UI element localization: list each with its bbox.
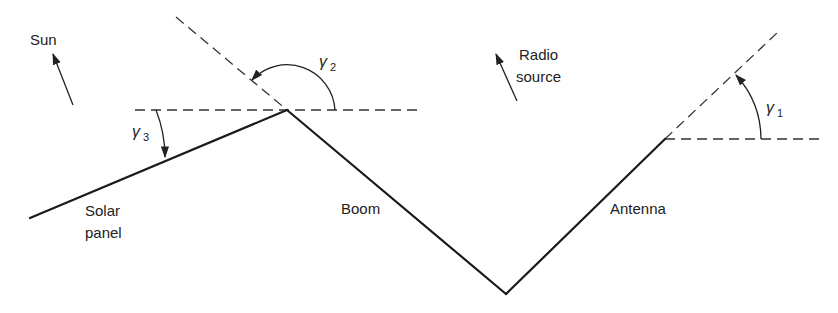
angle-gamma1: γ 1 (736, 75, 783, 139)
gamma3-arc-arrow-icon (156, 110, 165, 157)
solar-label-line1: Solar (85, 202, 120, 219)
gamma2-arc-arrow-icon (252, 65, 335, 110)
radio-label-line2: source (516, 68, 561, 85)
radio-source-direction: Radio source (496, 46, 561, 101)
spacecraft-angle-diagram: Sun Radio source γ 2 γ 3 γ 1 Solar panel… (0, 0, 838, 313)
solar-label-line2: panel (85, 224, 122, 241)
angle-gamma3: γ 3 (132, 110, 165, 157)
radio-source-arrow-icon (496, 54, 517, 101)
radio-label-line1: Radio (519, 46, 558, 63)
gamma3-symbol: γ (132, 123, 141, 140)
sun-arrow-icon (53, 54, 73, 105)
gamma3-subscript: 3 (143, 131, 149, 143)
gamma1-symbol: γ (766, 99, 775, 116)
boom (287, 110, 506, 294)
boom-extension-reference (176, 17, 287, 110)
gamma1-subscript: 1 (777, 107, 783, 119)
solar-panel (30, 110, 287, 218)
angle-gamma2: γ 2 (252, 53, 336, 110)
antenna-label: Antenna (610, 200, 667, 217)
antenna-extension-reference (665, 32, 778, 139)
gamma2-subscript: 2 (330, 61, 336, 73)
sun-label: Sun (30, 31, 57, 48)
gamma1-arc-arrow-icon (736, 75, 761, 139)
sun-direction: Sun (30, 31, 73, 105)
gamma2-symbol: γ (319, 53, 328, 70)
boom-label: Boom (341, 200, 380, 217)
